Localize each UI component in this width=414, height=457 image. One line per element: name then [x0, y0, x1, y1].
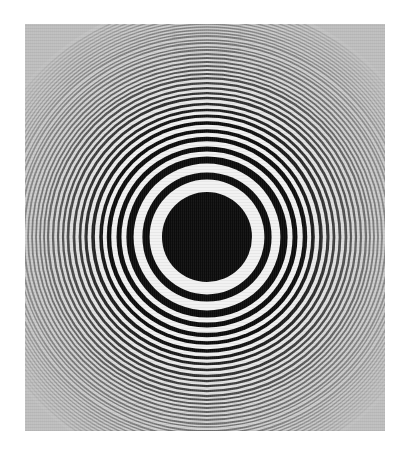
film-grain-overlay [25, 24, 385, 431]
interference-fringe-photo [25, 24, 385, 431]
